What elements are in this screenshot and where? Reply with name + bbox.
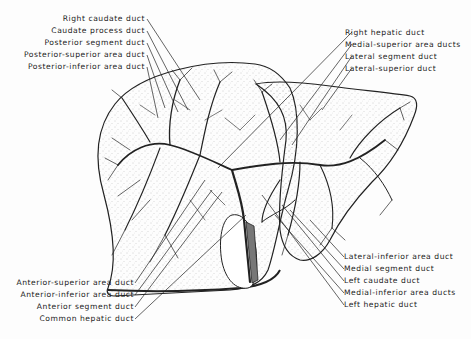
- label-lateral-segment-duct: Lateral segment duct: [345, 52, 437, 61]
- label-posterior-segment-duct: Posterior segment duct: [44, 38, 145, 47]
- label-anterior-superior-area-duct: Anterior-superior area duct: [16, 278, 134, 287]
- label-medial-inferior-area-ducts: Medial-inferior area ducts: [344, 288, 456, 297]
- label-medial-segment-duct: Medial segment duct: [344, 264, 434, 273]
- label-left-caudate-duct: Left caudate duct: [344, 276, 420, 285]
- label-posterior-superior-area-duct: Posterior-superior area duct: [24, 50, 145, 59]
- label-anterior-segment-duct: Anterior segment duct: [37, 302, 134, 311]
- label-posterior-inferior-area-duct: Posterior-inferior area duct: [28, 62, 145, 71]
- label-anterior-inferior-area-duct: Anterior-inferior area duct: [20, 290, 134, 299]
- label-right-caudate-duct: Right caudate duct: [63, 14, 145, 23]
- label-caudate-process-duct: Caudate process duct: [51, 26, 145, 35]
- liver-duct-diagram: Right caudate duct Caudate process duct …: [0, 0, 471, 339]
- label-right-hepatic-duct: Right hepatic duct: [345, 28, 425, 37]
- label-lateral-inferior-area-duct: Lateral-inferior area duct: [344, 252, 453, 261]
- label-lateral-superior-duct: Lateral-superior duct: [345, 64, 436, 73]
- right-lobe: [98, 63, 297, 296]
- label-common-hepatic-duct: Common hepatic duct: [40, 314, 135, 323]
- label-left-hepatic-duct: Left hepatic duct: [344, 300, 417, 309]
- label-medial-superior-area-ducts: Medial-superior area ducts: [345, 40, 461, 49]
